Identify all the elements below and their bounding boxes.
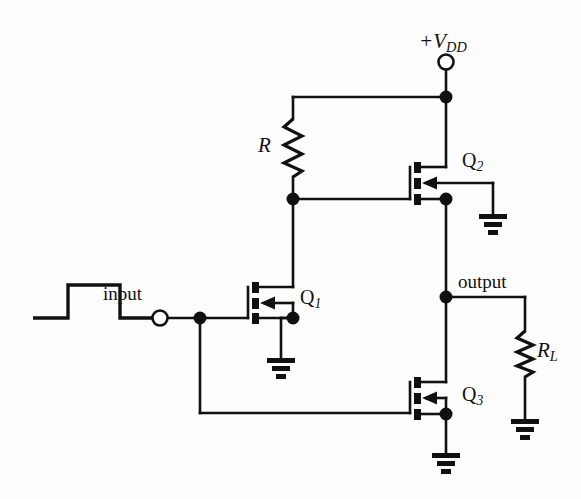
q2-channel-bar bbox=[414, 178, 421, 189]
q3-source-bar bbox=[414, 409, 421, 420]
junction-dot-r-bottom bbox=[287, 193, 300, 206]
ground-bar-1 bbox=[432, 453, 460, 458]
junction-dot-output bbox=[440, 291, 453, 304]
q3-channel-bar bbox=[414, 393, 421, 404]
ground-bar-2 bbox=[437, 461, 455, 466]
junction-dot-vdd bbox=[440, 91, 453, 104]
q1-label-prefix: Q bbox=[300, 286, 314, 308]
ground-symbol-rl bbox=[511, 419, 539, 440]
ground-bar-3 bbox=[441, 469, 451, 474]
supply-label-sub: DD bbox=[446, 39, 467, 55]
q1-label-sub: 1 bbox=[314, 296, 321, 311]
ground-bar-2 bbox=[516, 427, 534, 432]
ground-bar-1 bbox=[511, 419, 539, 424]
junction-dot-q3-source bbox=[440, 408, 453, 421]
transistor-q3-label: Q3 bbox=[462, 384, 484, 407]
ground-bar-1 bbox=[479, 214, 507, 219]
output-label: output bbox=[458, 272, 507, 291]
ground-group bbox=[267, 214, 539, 474]
ground-symbol-q3 bbox=[432, 453, 460, 474]
junction-dot-group bbox=[194, 91, 453, 421]
q2-substrate-arrow-icon bbox=[422, 177, 437, 190]
mosfet-bars-group bbox=[252, 162, 421, 420]
ground-bar-3 bbox=[488, 230, 498, 235]
ground-bar-1 bbox=[267, 358, 295, 363]
q2-source-bar bbox=[414, 194, 421, 205]
q1-source-bar bbox=[252, 313, 259, 324]
resistor-rl-label: RL bbox=[537, 340, 558, 363]
q1-channel-bar bbox=[252, 298, 259, 309]
ground-bar-2 bbox=[484, 222, 502, 227]
ground-bar-3 bbox=[276, 374, 286, 379]
resistor-r-label: R bbox=[258, 135, 271, 156]
rl-label-sub: L bbox=[550, 348, 558, 364]
q2-drain-bar bbox=[414, 162, 421, 173]
q3-label-prefix: Q bbox=[462, 383, 476, 405]
input-label: input bbox=[103, 284, 142, 303]
q2-label-prefix: Q bbox=[462, 149, 476, 171]
supply-label-prefix: +V bbox=[419, 29, 446, 53]
rl-label-prefix: R bbox=[537, 338, 550, 362]
open-terminal-group bbox=[153, 55, 454, 326]
q1-drain-bar bbox=[252, 282, 259, 293]
junction-dot-q2-source bbox=[440, 193, 453, 206]
resistor-group bbox=[284, 119, 533, 377]
ground-symbol-q2 bbox=[479, 214, 507, 235]
q3-drain-bar bbox=[414, 377, 421, 388]
transistor-q1-label: Q1 bbox=[300, 287, 322, 310]
resistor-rl-symbol bbox=[517, 331, 533, 377]
terminal-input-icon[interactable] bbox=[153, 311, 168, 326]
circuit-svg bbox=[0, 0, 581, 499]
junction-dot-input bbox=[194, 312, 207, 325]
ground-bar-3 bbox=[520, 435, 530, 440]
transistor-q2-label: Q2 bbox=[462, 150, 484, 173]
circuit-schematic-figure: +VDD R Q2 Q1 Q3 input output RL bbox=[0, 0, 581, 499]
ground-bar-2 bbox=[272, 366, 290, 371]
q2-label-sub: 2 bbox=[476, 159, 483, 174]
q3-substrate-arrow-icon bbox=[422, 392, 437, 405]
junction-dot-q1-source bbox=[287, 312, 300, 325]
ground-symbol-q1 bbox=[267, 358, 295, 379]
terminal-vdd-icon[interactable] bbox=[439, 55, 454, 70]
q1-substrate-arrow-icon bbox=[260, 297, 275, 310]
resistor-r-symbol bbox=[284, 119, 302, 177]
q3-label-sub: 3 bbox=[476, 393, 483, 408]
supply-label: +VDD bbox=[419, 31, 467, 54]
